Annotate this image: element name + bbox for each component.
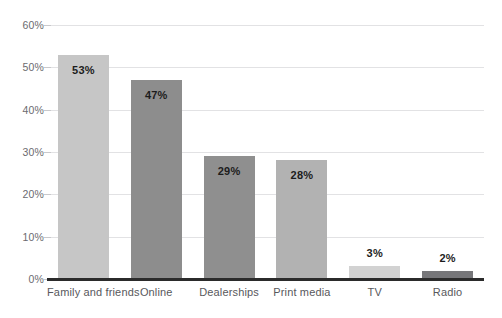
y-axis: 0%10%20%30%40%50%60% (0, 25, 44, 279)
bar-value-label: 53% (72, 64, 95, 76)
y-axis-tick-label: 60% (2, 19, 44, 31)
x-axis-category-label: Radio (411, 286, 484, 298)
y-axis-tick-label: 50% (2, 61, 44, 73)
x-axis-baseline (47, 278, 484, 281)
bar[interactable]: 53% (58, 55, 109, 279)
x-axis-category-label: TV (338, 286, 411, 298)
x-axis-category-label: Print media (266, 286, 339, 298)
y-axis-tick-label: 40% (2, 104, 44, 116)
bars-layer: 53%47%29%28%3%2% (47, 25, 484, 279)
x-axis-category-label: Dealerships (193, 286, 266, 298)
bar[interactable]: 28% (276, 160, 327, 279)
y-axis-tick-label: 30% (2, 146, 44, 158)
bar-value-label: 29% (218, 165, 241, 177)
x-axis-category-label: Online (120, 286, 193, 298)
y-axis-tick-label: 0% (2, 273, 44, 285)
y-axis-tick-label: 20% (2, 188, 44, 200)
bar[interactable]: 29% (204, 156, 255, 279)
bar-value-label: 2% (439, 252, 455, 264)
bar-chart: 0%10%20%30%40%50%60% 53%47%29%28%3%2% Fa… (0, 0, 502, 318)
x-axis-category-label: Family and friends (47, 286, 120, 298)
bar-value-label: 47% (145, 89, 168, 101)
bar-value-label: 28% (291, 169, 314, 181)
y-axis-tick-label: 10% (2, 231, 44, 243)
bar[interactable]: 47% (131, 80, 182, 279)
bar-value-label: 3% (367, 247, 383, 259)
